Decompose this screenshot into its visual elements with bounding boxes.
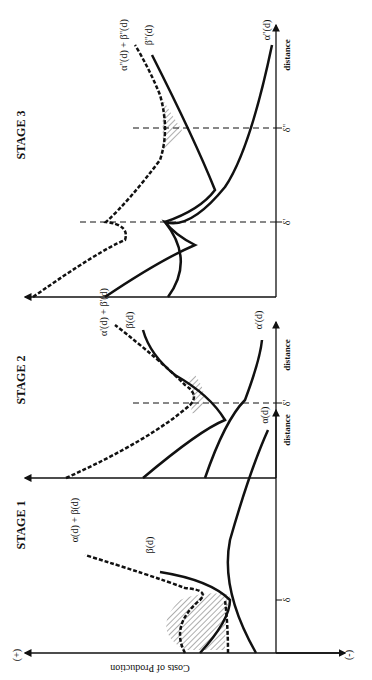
delta-prime-marker-3: δ': [281, 219, 292, 226]
alpha-curve: [228, 430, 268, 653]
beta-dprime-label: β''(d): [143, 25, 155, 45]
beta-label: β(d): [144, 537, 156, 554]
sum-dprime-curve: [33, 45, 165, 297]
alpha-prime-label: α'(d): [253, 311, 265, 330]
beta-label-2: β(d): [124, 312, 136, 329]
alpha-prime-curve: [205, 340, 262, 478]
y-axis-label: Costs of Production: [110, 663, 189, 674]
alpha-label: α(d): [259, 407, 271, 424]
distance-label-3: distance: [282, 39, 292, 71]
cost-diagram: δ STAGE 1 α(d) + β(d) β(d) α(d) distance…: [0, 0, 372, 680]
alpha-dprime-label: α''(d): [261, 20, 273, 41]
stage-2-title: STAGE 2: [14, 356, 28, 405]
stage-3-panel: δ' δ'' STAGE 3 α''(d) + β''(d) β''(d) α'…: [14, 19, 292, 297]
delta-dprime-marker: δ'': [281, 124, 292, 133]
stage-3-title: STAGE 3: [14, 111, 28, 160]
stage-1-title: STAGE 1: [14, 501, 28, 550]
stage-2-panel: δ' STAGE 2 α'(d) + β'(d) β(d) α'(d) dist…: [14, 288, 292, 478]
distance-label: distance: [282, 414, 292, 446]
minus-sign: (-): [343, 650, 355, 660]
delta-prime-marker: δ': [281, 400, 292, 407]
beta-dprime-curve: [105, 55, 215, 297]
sum-dprime-label: α''(d) + β''(d): [118, 19, 130, 71]
delta-marker: δ: [281, 597, 292, 602]
alpha-dprime-curve: [165, 45, 272, 297]
sum-prime-curve: [66, 325, 194, 478]
sum-label: α(d) + β(d): [69, 498, 81, 542]
distance-label-2: distance: [282, 339, 292, 371]
plus-sign: (+): [11, 649, 23, 661]
